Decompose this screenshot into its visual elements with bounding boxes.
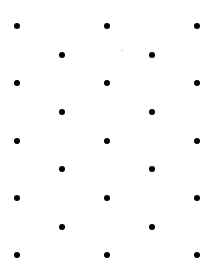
lattice-dot: [59, 166, 65, 172]
lattice-dot: [194, 195, 200, 201]
lattice-dot: [14, 23, 20, 29]
lattice-dot: [14, 138, 20, 144]
lattice-dot: [59, 224, 65, 230]
lattice-dot: [104, 23, 110, 29]
lattice-dot: [14, 80, 20, 86]
lattice-dot: [104, 252, 110, 258]
lattice-dot: [149, 109, 155, 115]
lattice-speck-artifact: [121, 49, 124, 52]
lattice-dot: [104, 195, 110, 201]
lattice-dot: [14, 195, 20, 201]
lattice-dot: [194, 80, 200, 86]
lattice-dot: [104, 80, 110, 86]
lattice-dot: [149, 166, 155, 172]
lattice-dot: [194, 23, 200, 29]
lattice-dot: [194, 138, 200, 144]
lattice-dot: [149, 224, 155, 230]
lattice-dot: [104, 138, 110, 144]
lattice-dot: [59, 109, 65, 115]
lattice-dot: [14, 252, 20, 258]
lattice-dot: [194, 252, 200, 258]
lattice-dot: [59, 52, 65, 58]
dot-lattice-figure: [0, 0, 218, 271]
lattice-dot: [149, 52, 155, 58]
